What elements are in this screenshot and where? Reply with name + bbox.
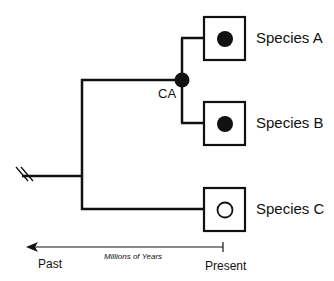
- species-a-trait-filled-icon: [217, 31, 233, 47]
- species-a-label: Species A: [256, 29, 323, 46]
- species-c-box: [204, 188, 245, 231]
- ca-node: [175, 73, 190, 88]
- axis-title: Millions of Years: [104, 252, 162, 261]
- axis-present-label: Present: [205, 259, 246, 273]
- species-c-label: Species C: [256, 200, 324, 217]
- ca-label: CA: [158, 86, 176, 101]
- time-axis: [26, 242, 223, 252]
- axis-past-label: Past: [38, 257, 62, 271]
- species-b-trait-filled-icon: [217, 116, 233, 132]
- break-marks: [16, 167, 33, 181]
- species-b-label: Species B: [256, 114, 324, 131]
